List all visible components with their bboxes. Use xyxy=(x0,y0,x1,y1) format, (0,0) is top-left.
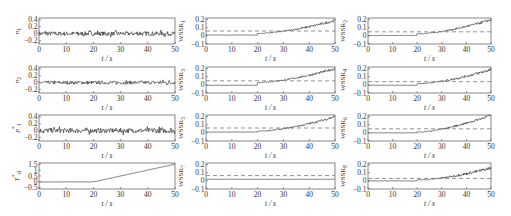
x-tick-label: 0 xyxy=(366,45,370,54)
x-tick-label: 40 xyxy=(463,142,471,151)
y-tick-label: 0.1 xyxy=(357,72,367,81)
y-axis-label: WSSR1 xyxy=(177,20,186,42)
x-tick-label: 30 xyxy=(117,94,125,103)
x-tick-label: 10 xyxy=(228,190,236,199)
y-tick-label: −0.1 xyxy=(353,89,367,98)
y-tick-label: 0 xyxy=(201,128,205,137)
x-tick-label: 10 xyxy=(228,94,236,103)
x-tick-label: 20 xyxy=(413,94,421,103)
x-tick-label: 0 xyxy=(37,190,41,199)
y-tick-label: −0.1 xyxy=(191,137,205,146)
x-tick-label: 30 xyxy=(280,190,288,199)
x-tick-label: 30 xyxy=(438,190,446,199)
y-axis-label: WSSR8 xyxy=(339,165,348,187)
x-tick-label: 20 xyxy=(90,94,98,103)
y-tick-label: 0 xyxy=(201,31,205,40)
x-tick-label: 20 xyxy=(90,142,98,151)
y-axis-label: WSSR5 xyxy=(177,117,186,139)
y-tick-label: 0 xyxy=(363,31,367,40)
x-axis-label: t / s xyxy=(265,151,276,160)
x-tick-label: 50 xyxy=(331,190,339,199)
y-tick-label: 0.2 xyxy=(195,15,205,24)
x-axis-label: t / s xyxy=(102,54,113,63)
x-tick-label: 10 xyxy=(62,94,70,103)
x-tick-label: 30 xyxy=(117,190,125,199)
y-tick-label: 0.2 xyxy=(357,160,367,169)
y-tick-label: 0.1 xyxy=(357,120,367,129)
y-tick-label: 0.2 xyxy=(357,112,367,121)
x-axis-label: t / s xyxy=(102,103,113,112)
y-tick-label: 0.1 xyxy=(195,72,205,81)
y-tick-label: 0 xyxy=(363,80,367,89)
x-tick-label: 40 xyxy=(463,45,471,54)
x-tick-label: 10 xyxy=(389,45,397,54)
x-axis-label: t / s xyxy=(102,151,113,160)
x-tick-label: 0 xyxy=(204,94,208,103)
y-tick-label: −0.1 xyxy=(191,89,205,98)
x-tick-label: 10 xyxy=(62,190,70,199)
y-tick-label: 0 xyxy=(363,176,367,185)
x-tick-label: 20 xyxy=(90,45,98,54)
x-axis-label: t / s xyxy=(424,54,435,63)
x-tick-label: 20 xyxy=(254,142,262,151)
x-axis-label: t / s xyxy=(424,103,435,112)
x-tick-label: 50 xyxy=(171,142,179,151)
x-tick-label: 10 xyxy=(228,45,236,54)
y-tick-label: 0.4 xyxy=(28,15,38,24)
x-tick-label: 40 xyxy=(305,190,313,199)
figure: 01020304050−0.200.20.4t / sn101020304050… xyxy=(0,0,511,216)
y-axis-label: WSSR6 xyxy=(339,117,348,139)
y-tick-label: 0.2 xyxy=(195,112,205,121)
x-tick-label: 20 xyxy=(413,142,421,151)
x-tick-label: 50 xyxy=(331,94,339,103)
x-tick-label: 50 xyxy=(331,142,339,151)
y-axis-label: WSSR3 xyxy=(177,69,186,91)
x-tick-label: 40 xyxy=(305,94,313,103)
x-tick-label: 30 xyxy=(438,142,446,151)
y-tick-label: 0.2 xyxy=(195,160,205,169)
x-tick-label: 10 xyxy=(228,142,236,151)
x-tick-label: 10 xyxy=(389,142,397,151)
y-tick-label: −0.1 xyxy=(191,40,205,49)
x-tick-label: 50 xyxy=(487,190,495,199)
x-tick-label: 0 xyxy=(37,45,41,54)
x-tick-label: 30 xyxy=(280,94,288,103)
x-tick-label: 0 xyxy=(204,142,208,151)
x-tick-label: 40 xyxy=(144,94,152,103)
y-tick-label: 1.5 xyxy=(28,160,38,169)
x-tick-label: 40 xyxy=(305,142,313,151)
x-tick-label: 20 xyxy=(413,190,421,199)
y-tick-label: 0.2 xyxy=(195,64,205,73)
x-axis-label: t / s xyxy=(424,199,435,208)
x-axis-label: t / s xyxy=(265,54,276,63)
x-tick-label: 50 xyxy=(487,94,495,103)
x-tick-label: 20 xyxy=(254,94,262,103)
x-tick-label: 50 xyxy=(171,45,179,54)
y-tick-label: −0.1 xyxy=(191,185,205,194)
x-tick-label: 30 xyxy=(280,45,288,54)
x-tick-label: 50 xyxy=(331,45,339,54)
y-tick-label: 0.2 xyxy=(357,15,367,24)
x-tick-label: 10 xyxy=(389,190,397,199)
x-axis-label: t / s xyxy=(424,151,435,160)
y-axis-label: WSSR7 xyxy=(177,165,186,187)
x-tick-label: 40 xyxy=(463,190,471,199)
x-tick-label: 10 xyxy=(389,94,397,103)
x-tick-label: 10 xyxy=(62,45,70,54)
y-tick-label: −0.1 xyxy=(353,137,367,146)
x-tick-label: 30 xyxy=(438,94,446,103)
y-axis-label: WSSR2 xyxy=(339,20,348,42)
x-tick-label: 0 xyxy=(204,45,208,54)
y-tick-label: 0.4 xyxy=(28,112,38,121)
x-tick-label: 0 xyxy=(366,142,370,151)
x-tick-label: 10 xyxy=(62,142,70,151)
x-tick-label: 30 xyxy=(280,142,288,151)
x-axis-label: t / s xyxy=(102,199,113,208)
x-axis-label: t / s xyxy=(265,199,276,208)
x-tick-label: 40 xyxy=(144,190,152,199)
y-tick-label: 0.1 xyxy=(357,168,367,177)
y-tick-label: 0 xyxy=(201,80,205,89)
x-tick-label: 0 xyxy=(366,190,370,199)
x-tick-label: 0 xyxy=(37,142,41,151)
y-tick-label: 0.4 xyxy=(28,64,38,73)
